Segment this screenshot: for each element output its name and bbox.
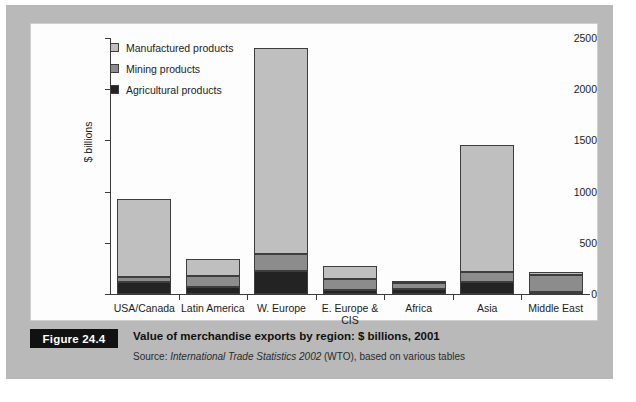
- y-tick-mark: [105, 140, 111, 141]
- x-axis-category-label: Middle East: [521, 302, 590, 314]
- bar-segment-agricultural: [323, 290, 377, 294]
- bar-asia[interactable]: [460, 38, 514, 294]
- legend-swatch-icon: [110, 64, 119, 73]
- bar-segment-agricultural: [254, 271, 308, 294]
- legend-swatch-icon: [110, 43, 119, 52]
- figure-page: $ billions 05001000150020002500 USA/Cana…: [0, 0, 636, 402]
- legend-item[interactable]: Mining products: [110, 59, 320, 78]
- x-axis-category-label: Asia: [453, 302, 522, 314]
- legend-item[interactable]: Agricultural products: [110, 80, 320, 99]
- x-tick-mark: [179, 295, 180, 300]
- source-publication: International Trade Statistics 2002: [170, 351, 321, 362]
- figure-title: Value of merchandise exports by region: …: [133, 330, 440, 342]
- y-tick-mark: [105, 243, 111, 244]
- chart-legend: Manufactured productsMining productsAgri…: [110, 38, 320, 101]
- bar-e-europe-cis[interactable]: [323, 38, 377, 294]
- x-axis-category-label: Africa: [384, 302, 453, 314]
- figure-source: Source: International Trade Statistics 2…: [133, 351, 465, 362]
- x-axis-category-label: E. Europe &CIS: [316, 302, 385, 326]
- bar-segment-mining: [529, 275, 583, 293]
- bar-segment-mining: [186, 276, 240, 287]
- y-axis-title: $ billions: [82, 82, 94, 202]
- bar-africa[interactable]: [392, 38, 446, 294]
- bar-middle-east[interactable]: [529, 38, 583, 294]
- legend-label: Agricultural products: [126, 84, 222, 96]
- x-tick-mark: [521, 295, 522, 300]
- x-axis-category-label: USA/Canada: [110, 302, 179, 314]
- bar-segment-mining: [254, 254, 308, 271]
- bar-segment-agricultural: [392, 289, 446, 294]
- bar-segment-agricultural: [117, 282, 171, 294]
- legend-item[interactable]: Manufactured products: [110, 38, 320, 57]
- x-label-line: E. Europe &: [316, 302, 385, 314]
- bar-segment-agricultural: [186, 287, 240, 294]
- x-axis-category-label: Latin America: [179, 302, 248, 314]
- bar-segment-agricultural: [529, 292, 583, 294]
- bar-segment-manufactured: [460, 145, 514, 272]
- x-tick-mark: [247, 295, 248, 300]
- bar-segment-mining: [460, 272, 514, 281]
- x-tick-mark: [453, 295, 454, 300]
- y-tick-mark: [105, 192, 111, 193]
- x-label-line: CIS: [316, 314, 385, 326]
- figure-panel: $ billions 05001000150020002500 USA/Cana…: [6, 5, 613, 379]
- bar-segment-mining: [323, 279, 377, 290]
- bar-segment-manufactured: [117, 199, 171, 277]
- chart-plot-area: $ billions 05001000150020002500 USA/Cana…: [30, 23, 598, 321]
- bar-segment-manufactured: [186, 259, 240, 276]
- bar-segment-manufactured: [323, 266, 377, 279]
- y-tick-mark: [105, 294, 111, 295]
- x-tick-mark: [316, 295, 317, 300]
- x-tick-mark: [384, 295, 385, 300]
- source-prefix: Source:: [133, 351, 170, 362]
- legend-label: Manufactured products: [126, 42, 233, 54]
- x-axis-line: [110, 294, 590, 295]
- source-suffix: (WTO), based on various tables: [321, 351, 465, 362]
- legend-swatch-icon: [110, 85, 119, 94]
- figure-number-badge: Figure 24.4: [30, 329, 118, 348]
- bar-segment-agricultural: [460, 282, 514, 294]
- legend-label: Mining products: [126, 63, 200, 75]
- x-axis-category-label: W. Europe: [247, 302, 316, 314]
- figure-caption: Figure 24.4 Value of merchandise exports…: [30, 327, 600, 375]
